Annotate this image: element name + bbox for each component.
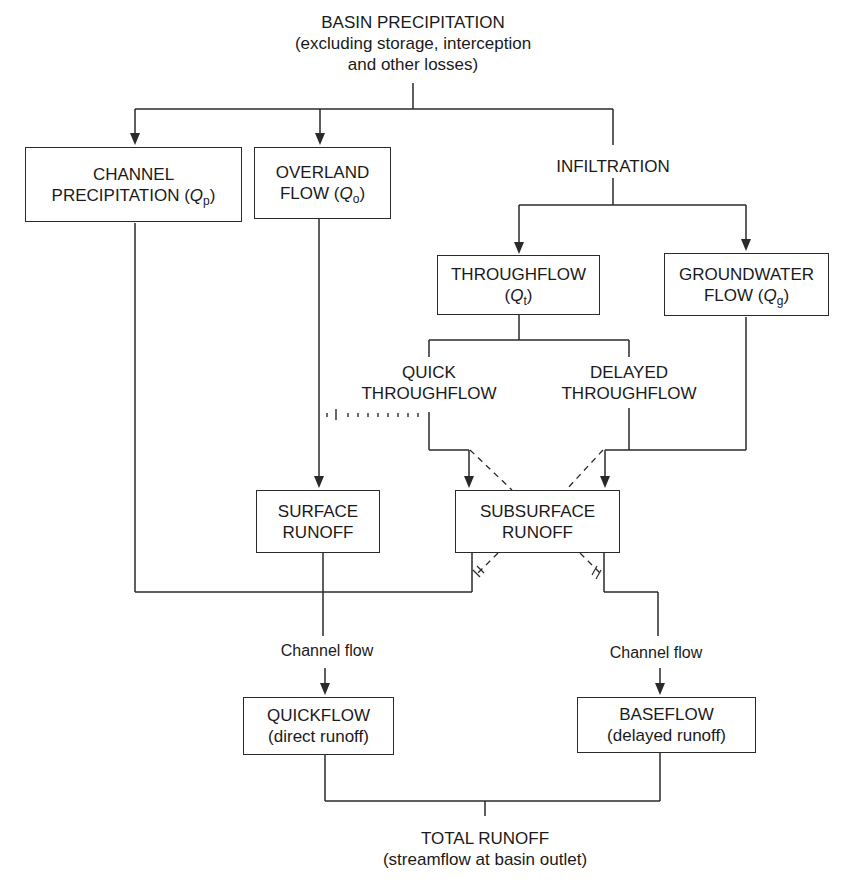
basin-precipitation-note-2: and other losses) bbox=[263, 54, 563, 75]
total-runoff-title: TOTAL RUNOFF bbox=[335, 828, 635, 849]
groundwater-flow-line1: GROUNDWATER bbox=[679, 264, 814, 285]
basin-precipitation-title: BASIN PRECIPITATION bbox=[263, 12, 563, 33]
throughflow-line1: THROUGHFLOW bbox=[451, 264, 586, 285]
surface-runoff-line2: RUNOFF bbox=[283, 522, 354, 543]
quickflow-line1: QUICKFLOW bbox=[267, 705, 370, 726]
groundwater-flow-line2: FLOW (Qg) bbox=[704, 285, 789, 306]
delayed-throughflow-line1: DELAYED bbox=[544, 362, 714, 383]
overland-flow-line2: FLOW (Qo) bbox=[280, 183, 365, 204]
basin-precipitation-label: BASIN PRECIPITATION (excluding storage, … bbox=[263, 12, 563, 75]
quick-throughflow-label: QUICK THROUGHFLOW bbox=[344, 362, 514, 404]
throughflow-box: THROUGHFLOW (Qt) bbox=[437, 255, 600, 315]
baseflow-box: BASEFLOW (delayed runoff) bbox=[577, 697, 756, 753]
subsurface-runoff-line2: RUNOFF bbox=[502, 522, 573, 543]
channel-flow-left-label: Channel flow bbox=[259, 640, 395, 661]
delayed-throughflow-line2: THROUGHFLOW bbox=[544, 383, 714, 404]
channel-precipitation-line1: CHANNEL bbox=[93, 164, 174, 185]
infiltration-label: INFILTRATION bbox=[543, 156, 683, 177]
groundwater-flow-box: GROUNDWATER FLOW (Qg) bbox=[664, 253, 829, 316]
throughflow-line2: (Qt) bbox=[505, 285, 533, 306]
quickflow-box: QUICKFLOW (direct runoff) bbox=[243, 697, 394, 755]
baseflow-line2: (delayed runoff) bbox=[607, 725, 726, 746]
quick-throughflow-line2: THROUGHFLOW bbox=[344, 383, 514, 404]
basin-precipitation-note-1: (excluding storage, interception bbox=[263, 33, 563, 54]
dashed-end-ticks bbox=[473, 566, 601, 579]
quickflow-line2: (direct runoff) bbox=[268, 726, 369, 747]
channel-precipitation-box: CHANNEL PRECIPITATION (Qp) bbox=[25, 147, 242, 222]
channel-flow-right-label: Channel flow bbox=[588, 642, 724, 663]
overland-flow-line1: OVERLAND bbox=[276, 162, 370, 183]
channel-precipitation-line2: PRECIPITATION (Qp) bbox=[52, 185, 216, 206]
delayed-throughflow-label: DELAYED THROUGHFLOW bbox=[544, 362, 714, 404]
quick-throughflow-line1: QUICK bbox=[344, 362, 514, 383]
overland-flow-box: OVERLAND FLOW (Qo) bbox=[254, 147, 391, 219]
subsurface-runoff-line1: SUBSURFACE bbox=[480, 501, 595, 522]
subsurface-runoff-box: SUBSURFACE RUNOFF bbox=[455, 490, 620, 553]
baseflow-line1: BASEFLOW bbox=[619, 704, 713, 725]
total-runoff-note: (streamflow at basin outlet) bbox=[335, 849, 635, 870]
surface-runoff-box: SURFACE RUNOFF bbox=[256, 490, 380, 553]
surface-runoff-line1: SURFACE bbox=[278, 501, 358, 522]
total-runoff-label: TOTAL RUNOFF (streamflow at basin outlet… bbox=[335, 828, 635, 870]
dotted-quick-throughflow-leader bbox=[327, 409, 418, 420]
